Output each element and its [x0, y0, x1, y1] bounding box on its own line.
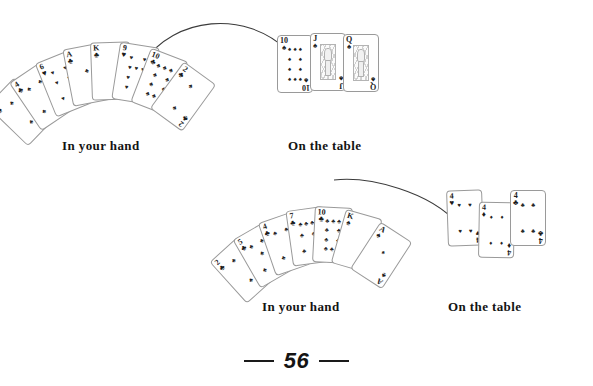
caption-in-your-hand-2: In your hand	[262, 299, 340, 315]
card-corner-index: 6♥	[38, 63, 48, 79]
card-corner-index: 4♣	[513, 192, 518, 207]
card-corner-index: 4♣	[538, 229, 543, 244]
playing-card: J♠J♠	[310, 33, 346, 91]
page-footer: 56	[0, 348, 593, 374]
card-corner-index: Q♠	[346, 36, 352, 51]
card-pips: ♠♠♠♠♠♠♠♠♠♠	[287, 44, 303, 84]
court-card-illustration	[320, 44, 336, 80]
table-spread-example-1: 10♠10♠♠♠♠♠♠♠♠♠♠♠J♠J♠Q♠Q♠	[277, 33, 397, 99]
playing-card: 4♣4♣♣♣♣♣	[510, 190, 546, 246]
card-pips: ♣♣♣♣	[520, 199, 536, 237]
card-pips: ♥♥♥♥	[456, 199, 473, 238]
card-corner-index: 4♦	[482, 204, 486, 219]
court-card-illustration	[353, 45, 369, 81]
footer-rule-left	[244, 360, 274, 362]
card-corner-index: 10♠	[302, 76, 310, 91]
book-page: 2♣2♣♣♣4♣4♣♣♣♣♣6♥6♥♥♥♥♥♥♥A♣A♣♣K♣K♣9♥9♥♥♥♥…	[0, 0, 593, 386]
card-corner-index: K♣	[93, 44, 100, 59]
card-corner-index: 4♣	[261, 222, 271, 238]
card-corner-index: 4♥	[449, 192, 454, 207]
hand-fan-example-1: 2♣2♣♣♣4♣4♣♣♣♣♣6♥6♥♥♥♥♥♥♥A♣A♣♣K♣K♣9♥9♥♥♥♥…	[22, 26, 182, 136]
card-pips: ♠	[363, 235, 399, 277]
card-corner-index: 9♥	[121, 44, 128, 60]
table-spread-example-2: 4♥4♥♥♥♥♥4♦4♦♦♦♦♦4♣4♣♣♣♣♣	[448, 190, 558, 262]
playing-card: 10♠10♠♠♠♠♠♠♠♠♠♠♠	[277, 35, 313, 93]
hand-fan-example-2: 2♣2♣♣♣5♣5♣♣♣♣♣♣4♣4♣♣♣♣♣7♣7♣♣♣♣♣♣♣♣10♣10♣…	[242, 190, 392, 295]
page-number: 56	[284, 348, 309, 374]
footer-rule-right	[319, 360, 349, 362]
caption-in-your-hand-1: In your hand	[62, 138, 140, 154]
card-corner-index: J♠	[313, 35, 317, 50]
card-corner-index: Q♠	[370, 75, 376, 90]
card-corner-index: 7♣	[289, 212, 296, 228]
playing-card: Q♠Q♠	[343, 34, 379, 92]
card-corner-index: A♣	[66, 50, 75, 66]
caption-on-the-table-2: On the table	[448, 299, 521, 315]
card-pips: ♦♦♦♦	[488, 211, 505, 249]
caption-on-the-table-1: On the table	[288, 138, 361, 154]
card-pips: ♣♣	[163, 74, 203, 118]
